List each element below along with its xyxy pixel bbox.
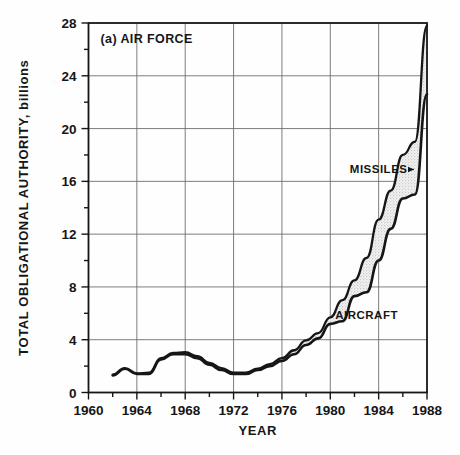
x-tick-label: 1984	[364, 403, 395, 418]
x-tick-label: 1980	[315, 403, 345, 418]
y-tick-label: 28	[61, 16, 77, 31]
y-tick-label: 16	[61, 174, 77, 189]
panel-label: (a) AIR FORCE	[101, 32, 193, 46]
figure-container: 19601964196819721976198019841988 0481216…	[0, 0, 460, 455]
y-tick-label: 4	[69, 333, 77, 348]
x-tick-label: 1960	[73, 403, 103, 418]
x-tick-label: 1968	[170, 403, 201, 418]
annotation-missiles: MISSILES	[350, 163, 408, 175]
x-axis-title: YEAR	[238, 423, 277, 438]
y-axis-title: TOTAL OBLIGATIONAL AUTHORITY, billions	[16, 60, 31, 356]
y-tick-label: 0	[69, 386, 77, 401]
air-force-toa-chart: 19601964196819721976198019841988 0481216…	[0, 0, 460, 455]
y-tick-label: 20	[61, 122, 76, 137]
y-tick-label: 8	[69, 280, 77, 295]
annotation-aircraft: AIRCRAFT	[335, 309, 398, 321]
y-tick-label: 12	[61, 227, 76, 242]
x-tick-label: 1976	[267, 403, 298, 418]
x-tick-label: 1972	[219, 403, 249, 418]
y-tick-label: 24	[61, 69, 77, 84]
x-tick-label: 1964	[122, 403, 153, 418]
x-tick-label: 1988	[412, 403, 443, 418]
